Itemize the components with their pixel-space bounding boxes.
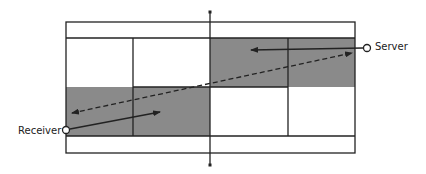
shaded-service-box-receiver — [66, 87, 210, 136]
server-position-icon — [364, 45, 371, 52]
net-post-top — [209, 11, 212, 14]
shaded-service-box-server — [210, 38, 355, 87]
receiver-label: Receiver — [18, 125, 61, 136]
receiver-position-icon — [63, 127, 70, 134]
net-post-bottom — [209, 164, 212, 167]
server-label: Server — [375, 41, 408, 52]
tennis-court-diagram — [0, 0, 426, 174]
